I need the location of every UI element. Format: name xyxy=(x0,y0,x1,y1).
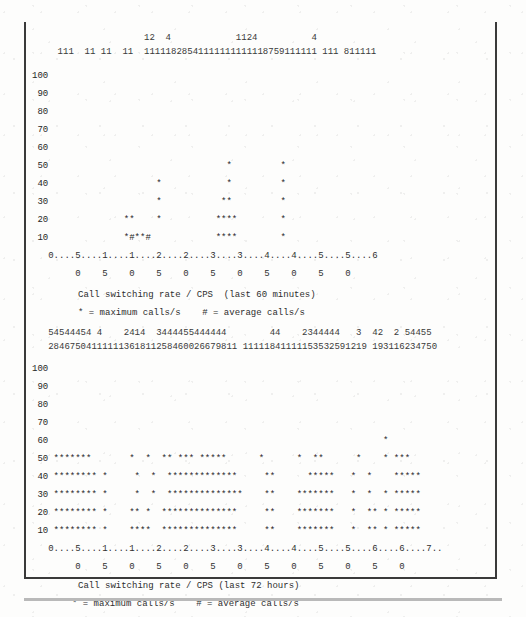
page-canvas: 12 4 1124 4 111 11 11 11 111118285411111… xyxy=(0,0,526,617)
chart2-plot-row-70: 70 xyxy=(32,417,48,431)
chart1-plot-row-30: 30 * ** * xyxy=(32,196,286,210)
chart2-plot-row-20: 20 ******** * ** * ************** ** ***… xyxy=(32,507,421,521)
chart2-x-axis-units: 0 5 0 5 0 5 0 5 0 5 0 5 0 xyxy=(32,561,405,575)
chart2-header-row-1: 54544454 4 2414 3444455444444 44 2344444… xyxy=(32,327,432,341)
chart2-plot-row-100: 100 xyxy=(32,363,48,377)
chart1-plot-row-10: 10 *#**# **** * xyxy=(32,232,286,246)
chart2-plot-row-50: 50 ******* * * ** *** ***** * * ** * * *… xyxy=(32,453,410,467)
chart2-plot-row-80: 80 xyxy=(32,399,48,413)
chart1-plot-row-40: 40 * * * xyxy=(32,178,286,192)
chart2-header-row-2: 28467504111111361811258460026679811 1111… xyxy=(32,341,437,355)
chart1-header-row-1: 12 4 1124 4 xyxy=(36,32,317,46)
chart1-plot-row-70: 70 xyxy=(32,124,48,138)
chart2-plot-row-60: 60 * xyxy=(32,435,388,449)
page-footer-rule xyxy=(24,598,502,601)
chart1-title: Call switching rate / CPS (last 60 minut… xyxy=(78,289,316,303)
chart2-plot-row-40: 40 ******** * * * ************* ** *****… xyxy=(32,471,421,485)
chart1-header-row-2: 111 11 11 11 111118285411111111111187591… xyxy=(36,46,376,60)
chart1-x-axis-units: 0 5 0 5 0 5 0 5 0 5 0 xyxy=(32,268,351,282)
chart2-plot-row-30: 30 ******** * * * ************** ** ****… xyxy=(32,489,421,503)
chart1-plot-row-50: 50 * * xyxy=(32,160,286,174)
chart1-legend: * = maximum calls/s # = average calls/s xyxy=(78,307,305,321)
chart1-plot-row-60: 60 xyxy=(32,142,48,156)
chart2-x-axis-ruler: 0....5....1....1....2....2....3....3....… xyxy=(32,543,442,557)
chart1-plot-row-90: 90 xyxy=(32,88,48,102)
chart2-plot-row-10: 10 ******** * **** ************** ** ***… xyxy=(32,525,421,539)
chart1-plot-row-20: 20 ** * **** * xyxy=(32,214,286,228)
chart2-plot-row-90: 90 xyxy=(32,381,48,395)
chart2-title: Call switching rate / CPS (last 72 hours… xyxy=(78,580,299,594)
chart1-x-axis-ruler: 0....5....1....1....2....2....3....3....… xyxy=(32,250,378,264)
chart1-plot-row-100: 100 xyxy=(32,70,48,84)
chart1-plot-row-80: 80 xyxy=(32,106,48,120)
